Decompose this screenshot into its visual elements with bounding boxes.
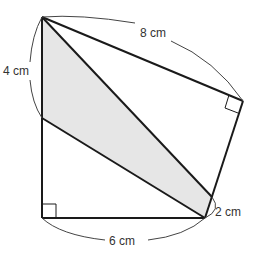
arc-6cm-right xyxy=(148,218,205,240)
right-angle-marker-F xyxy=(42,204,56,218)
arc-8cm-right xyxy=(171,41,243,101)
shaded-region xyxy=(42,17,212,218)
geometry-diagram: 8 cm 4 cm 6 cm 2 cm xyxy=(0,0,260,259)
arc-4cm-bottom xyxy=(30,80,42,118)
arc-4cm-top xyxy=(30,17,42,62)
label-4cm: 4 cm xyxy=(3,64,29,78)
edge-BC xyxy=(205,101,243,218)
label-6cm: 6 cm xyxy=(109,234,135,248)
label-8cm: 8 cm xyxy=(140,26,166,40)
label-2cm: 2 cm xyxy=(215,205,241,219)
arc-6cm-left xyxy=(42,218,105,240)
